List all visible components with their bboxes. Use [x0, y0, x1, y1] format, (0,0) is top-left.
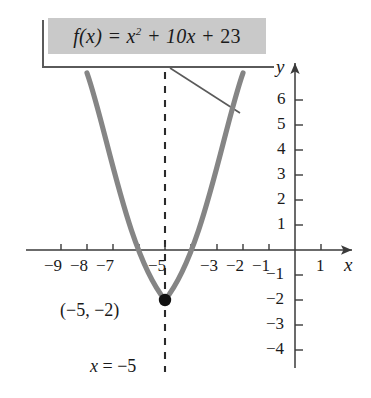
- axis-of-symmetry-equation-label: x = −5: [90, 356, 136, 377]
- y-tick-label-6: 6: [277, 89, 286, 109]
- vertex-point-marker: [159, 294, 171, 306]
- axis-of-symmetry-variable: x: [90, 356, 98, 376]
- quadratic-function-graph-figure: f(x) = x2 + 10x + 23: [0, 0, 371, 398]
- y-tick-label-5: 5: [277, 114, 286, 134]
- x-tick-label--7: −7: [96, 256, 114, 276]
- y-tick-label--1: −1: [266, 264, 284, 284]
- y-tick-label--2: −2: [266, 289, 284, 309]
- x-axis-label: x: [344, 254, 352, 276]
- coordinate-plane: [0, 0, 371, 398]
- y-tick-label--3: −3: [266, 314, 284, 334]
- y-axis-ticks: [295, 100, 303, 350]
- y-tick-label-3: 3: [277, 164, 286, 184]
- x-tick-label--3: −3: [200, 256, 218, 276]
- x-tick-label-1: 1: [316, 256, 325, 276]
- y-tick-label-1: 1: [277, 214, 286, 234]
- axis-of-symmetry-value: = −5: [103, 356, 137, 376]
- x-tick-label--8: −8: [70, 256, 88, 276]
- vertex-coordinate-label: (−5, −2): [60, 300, 119, 321]
- x-tick-label--9: −9: [44, 256, 62, 276]
- y-tick-label--4: −4: [266, 339, 284, 359]
- y-tick-label-2: 2: [277, 189, 286, 209]
- y-tick-label-4: 4: [277, 139, 286, 159]
- callout-leader-line: [170, 68, 240, 113]
- x-tick-label--2: −2: [226, 256, 244, 276]
- y-axis-label: y: [276, 56, 284, 78]
- x-tick-label--5: −5: [148, 256, 166, 276]
